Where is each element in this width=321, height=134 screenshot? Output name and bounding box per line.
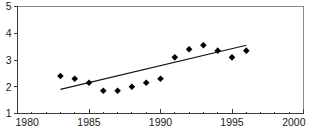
data-point: [71, 75, 78, 82]
data-point: [157, 75, 164, 82]
data-point: [243, 47, 250, 54]
data-point: [57, 73, 64, 80]
y-axis-tick-label: 4: [6, 27, 12, 39]
x-axis-tick-label: 1985: [77, 116, 101, 128]
data-point: [100, 87, 107, 94]
data-point: [129, 83, 136, 90]
data-point: [172, 54, 179, 61]
y-axis-tick-label: 1: [6, 107, 12, 119]
x-axis-tick-label: 2000: [282, 116, 306, 128]
data-point: [186, 46, 193, 53]
data-point: [86, 79, 93, 86]
x-axis-tick-label: 1980: [16, 116, 40, 128]
chart-container: 1234519801985199019952000: [0, 0, 321, 134]
data-point-group: [57, 42, 250, 94]
data-point: [229, 54, 236, 61]
data-point: [143, 79, 150, 86]
y-axis-tick-label: 3: [6, 54, 12, 66]
scatter-plot: 1234519801985199019952000: [0, 0, 321, 134]
y-axis-tick-label: 5: [6, 0, 12, 12]
plot-frame: [18, 7, 304, 114]
x-axis-tick-label: 1990: [149, 116, 173, 128]
data-point: [200, 42, 207, 49]
data-point: [114, 87, 121, 94]
y-axis-tick-label: 2: [6, 81, 12, 93]
x-axis-tick-label: 1995: [220, 116, 244, 128]
